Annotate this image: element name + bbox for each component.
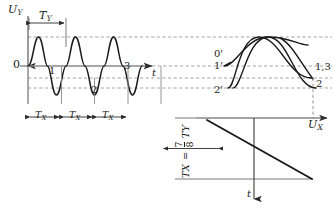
t-axis-label-bottom: t xyxy=(247,189,251,199)
waveform-point-2-label: 2 xyxy=(91,85,97,95)
arc-point-2-prime-label: 2' xyxy=(214,85,223,95)
waveform-point-1-label: 1 xyxy=(49,66,55,76)
tx-ty-relation-label: TX = 7 8 TY xyxy=(174,125,195,178)
lissajous-arc-traces xyxy=(224,37,316,88)
tx-period-label-3: TX xyxy=(102,110,113,121)
waveform-point-3-label: 3 xyxy=(124,61,130,71)
arc-point-1-prime-label: 1' xyxy=(214,61,223,71)
arc-point-2-right-label: 2 xyxy=(316,79,322,89)
amplitude-guide-lines xyxy=(28,37,332,88)
oscilloscope-timing-diagram: UY TY 0 1 2 3 t TX TX TX 0' 1' 2' 1,3 2 … xyxy=(0,0,334,213)
arc-point-1-3-label: 1,3 xyxy=(315,62,331,72)
tx-period-label-2: TX xyxy=(69,110,80,121)
seven-eighths-fraction: 7 8 xyxy=(174,141,195,147)
sweep-ramp-line xyxy=(207,120,312,179)
uy-axis-label: UY xyxy=(8,4,23,17)
arc-point-0-prime-label: 0' xyxy=(214,49,223,59)
t-axis-label-left: t xyxy=(152,68,156,78)
tx-period-label-1: TX xyxy=(35,110,46,121)
origin-zero-label: 0 xyxy=(13,59,20,70)
diagram-canvas xyxy=(0,0,334,213)
ux-axis-label: UX xyxy=(308,119,323,132)
ty-period-label: TY xyxy=(39,10,52,23)
